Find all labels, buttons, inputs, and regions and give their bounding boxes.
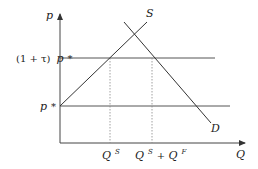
supply-curve [60, 22, 147, 106]
supply-demand-diagram: p Q S D (1 + τ) p * p * Q S Q S + Q F [0, 0, 258, 169]
demand-label: D [210, 122, 220, 135]
x-axis-label: Q [236, 148, 245, 161]
demand-curve [124, 22, 211, 123]
supply-label: S [146, 7, 154, 20]
upper-price-label: (1 + τ) p * [16, 48, 72, 65]
qs-label: Q S [102, 145, 120, 162]
y-axis-label: p [46, 9, 53, 22]
lower-price-label: p * [40, 96, 56, 113]
